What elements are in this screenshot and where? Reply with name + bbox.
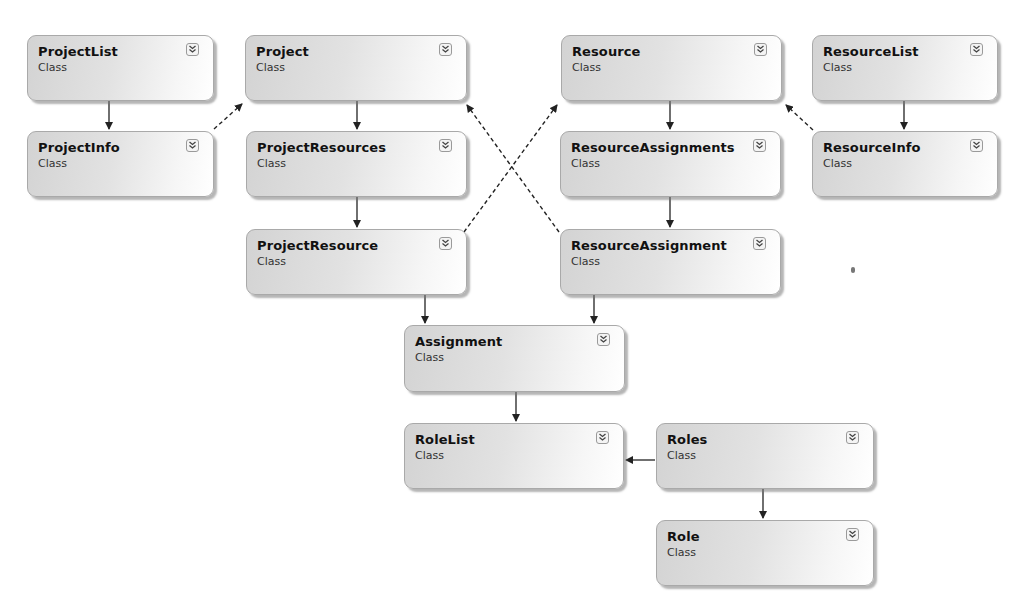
class-box-rolelist[interactable]: RoleList Class — [404, 423, 624, 489]
class-name: ProjectList — [38, 44, 118, 59]
class-name: ResourceAssignment — [571, 238, 727, 253]
class-kind-label: Class — [572, 61, 601, 74]
class-name: Project — [256, 44, 309, 59]
class-box-roles[interactable]: Roles Class — [656, 423, 874, 489]
expand-chevron-icon[interactable] — [597, 333, 610, 346]
class-kind-label: Class — [667, 546, 696, 559]
class-name: ResourceAssignments — [571, 140, 735, 155]
class-box-resourcelist[interactable]: ResourceList Class — [812, 35, 998, 101]
class-name: Roles — [667, 432, 707, 447]
expand-chevron-icon[interactable] — [754, 43, 767, 56]
class-diagram-canvas: ProjectList Class Project Class Resource… — [0, 0, 1027, 614]
connector-resourceassignment-to-project[interactable] — [467, 105, 559, 232]
class-name: Role — [667, 529, 700, 544]
class-name: Assignment — [415, 334, 502, 349]
connector-resourceinfo-to-resource[interactable] — [786, 105, 813, 130]
connector-projectinfo-to-project[interactable] — [214, 104, 242, 129]
class-kind-label: Class — [38, 61, 67, 74]
class-kind-label: Class — [823, 61, 852, 74]
class-box-project[interactable]: Project Class — [245, 35, 467, 101]
class-box-resourceassignment[interactable]: ResourceAssignment Class — [560, 229, 781, 295]
class-name: ProjectResources — [257, 140, 386, 155]
expand-chevron-icon[interactable] — [970, 139, 983, 152]
class-kind-label: Class — [256, 61, 285, 74]
class-kind-label: Class — [257, 157, 286, 170]
class-name: RoleList — [415, 432, 475, 447]
class-box-role[interactable]: Role Class — [656, 520, 874, 586]
class-kind-label: Class — [415, 351, 444, 364]
class-name: Resource — [572, 44, 641, 59]
expand-chevron-icon[interactable] — [846, 431, 859, 444]
class-kind-label: Class — [667, 449, 696, 462]
expand-chevron-icon[interactable] — [439, 139, 452, 152]
expand-chevron-icon[interactable] — [753, 139, 766, 152]
class-box-projectlist[interactable]: ProjectList Class — [27, 35, 214, 101]
expand-chevron-icon[interactable] — [186, 139, 199, 152]
connector-projectresource-to-resource[interactable] — [464, 105, 557, 232]
expand-chevron-icon[interactable] — [753, 237, 766, 250]
class-kind-label: Class — [257, 255, 286, 268]
class-name: ProjectResource — [257, 238, 378, 253]
class-name: ResourceInfo — [823, 140, 921, 155]
expand-chevron-icon[interactable] — [970, 43, 983, 56]
class-kind-label: Class — [823, 157, 852, 170]
expand-chevron-icon[interactable] — [596, 431, 609, 444]
class-kind-label: Class — [571, 157, 600, 170]
class-box-assignment[interactable]: Assignment Class — [404, 325, 625, 392]
class-kind-label: Class — [571, 255, 600, 268]
expand-chevron-icon[interactable] — [186, 43, 199, 56]
stray-dot — [851, 267, 855, 273]
class-kind-label: Class — [415, 449, 444, 462]
expand-chevron-icon[interactable] — [439, 237, 452, 250]
class-name: ProjectInfo — [38, 140, 120, 155]
class-box-projectinfo[interactable]: ProjectInfo Class — [27, 131, 214, 197]
class-kind-label: Class — [38, 157, 67, 170]
expand-chevron-icon[interactable] — [439, 43, 452, 56]
class-box-resourceassignments[interactable]: ResourceAssignments Class — [560, 131, 781, 197]
class-box-resource[interactable]: Resource Class — [561, 35, 782, 101]
class-box-resourceinfo[interactable]: ResourceInfo Class — [812, 131, 998, 197]
class-box-projectresource[interactable]: ProjectResource Class — [246, 229, 467, 295]
expand-chevron-icon[interactable] — [846, 528, 859, 541]
class-box-projectresources[interactable]: ProjectResources Class — [246, 131, 467, 197]
class-name: ResourceList — [823, 44, 919, 59]
